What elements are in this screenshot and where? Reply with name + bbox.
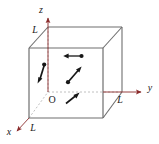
particle-left-downleft-shaft bbox=[40, 66, 44, 79]
particle-left-downleft-dot bbox=[42, 63, 46, 67]
y-length-label: L bbox=[116, 94, 123, 105]
particle-left-downleft-head bbox=[38, 77, 43, 83]
y-axis-label: y bbox=[147, 82, 153, 93]
cube-diagram-svg: z y x L L L O bbox=[0, 0, 159, 144]
x-axis-line bbox=[17, 118, 29, 131]
particle-center-upright bbox=[66, 66, 82, 84]
x-length-label: L bbox=[29, 122, 36, 133]
particle-left-downleft bbox=[38, 63, 47, 84]
particle-left-moving-dot bbox=[79, 54, 83, 58]
physics-cube-figure: z y x L L L O bbox=[0, 0, 159, 144]
z-axis-label: z bbox=[38, 4, 43, 15]
cube-front-face bbox=[29, 48, 103, 118]
particle-left-moving-head bbox=[63, 54, 68, 59]
edge-depth-top-right bbox=[103, 27, 122, 48]
particle-center-upright-dot bbox=[66, 80, 70, 84]
z-length-label: L bbox=[31, 24, 38, 35]
particles-group bbox=[38, 54, 84, 104]
particle-bottom-upright-shaft bbox=[66, 96, 76, 104]
particle-bottom-upright bbox=[66, 93, 80, 104]
cube-back-edges bbox=[48, 27, 122, 92]
hidden-edge-origin-diagonal bbox=[29, 92, 48, 118]
particle-left-moving bbox=[63, 54, 83, 59]
x-axis-label: x bbox=[6, 126, 12, 137]
particle-center-upright-shaft bbox=[69, 70, 79, 81]
origin-label: O bbox=[48, 94, 55, 105]
